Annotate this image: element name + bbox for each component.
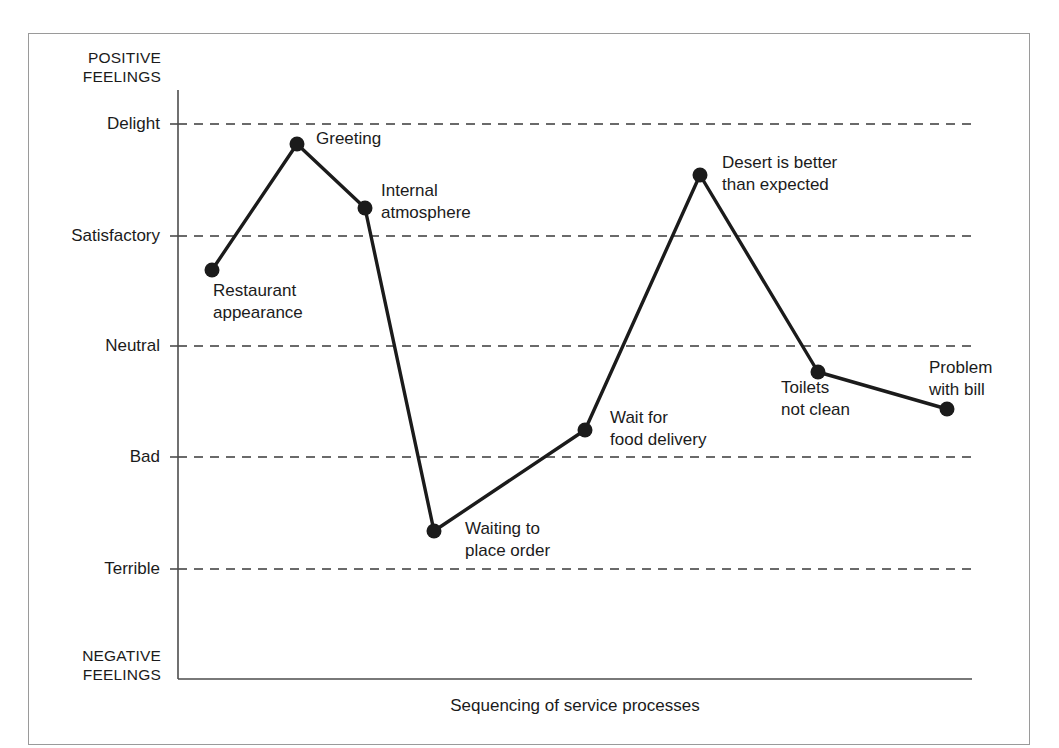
ytick-label-bad: Bad (0, 447, 160, 467)
data-point-marker[interactable] (940, 402, 955, 417)
ytick-label-satisfactory: Satisfactory (0, 226, 160, 246)
ytick-label-terrible: Terrible (0, 559, 160, 579)
annotation-greeting: Greeting (316, 128, 381, 150)
annotation-desert-better-than-expected: Desert is better than expected (722, 152, 837, 196)
ytick-label-delight: Delight (0, 114, 160, 134)
tick-marks-group (170, 124, 178, 569)
annotation-toilets-not-clean: Toilets not clean (781, 377, 850, 421)
data-point-marker[interactable] (205, 263, 220, 278)
annotation-waiting-to-place-order: Waiting to place order (465, 518, 550, 562)
x-axis-title: Sequencing of service processes (178, 696, 972, 716)
chart-canvas (0, 0, 1059, 748)
data-point-marker[interactable] (290, 137, 305, 152)
emotion-journey-line (212, 144, 947, 531)
annotation-internal-atmosphere: Internal atmosphere (381, 180, 471, 224)
annotation-problem-with-bill: Problem with bill (929, 357, 992, 401)
data-point-marker[interactable] (358, 201, 373, 216)
ytick-label-neutral: Neutral (0, 336, 160, 356)
positive-feelings-label: POSITIVE FEELINGS (18, 48, 161, 86)
data-point-marker[interactable] (693, 168, 708, 183)
negative-feelings-label: NEGATIVE FEELINGS (18, 646, 161, 684)
chart-page: POSITIVE FEELINGS NEGATIVE FEELINGS Deli… (0, 0, 1059, 748)
gridlines-group (178, 124, 975, 569)
data-point-marker[interactable] (578, 423, 593, 438)
annotation-restaurant-appearance: Restaurant appearance (213, 280, 303, 324)
annotation-wait-for-food-delivery: Wait for food delivery (610, 407, 706, 451)
data-markers-group (205, 137, 955, 539)
data-point-marker[interactable] (427, 524, 442, 539)
